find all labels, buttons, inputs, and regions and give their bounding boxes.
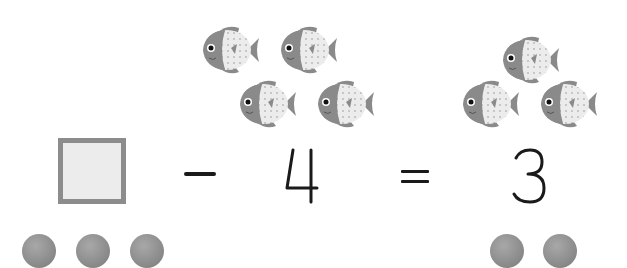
fish-icon: [533, 78, 601, 130]
digit-three: [510, 148, 550, 204]
ball-icon: [76, 234, 110, 268]
equals-sign: [401, 170, 429, 184]
fish-icon: [310, 78, 378, 130]
fish-icon: [232, 78, 300, 130]
digit-four: [285, 148, 321, 204]
ball-icon: [22, 234, 56, 268]
ball-icon: [543, 234, 577, 268]
fish-icon: [273, 24, 341, 76]
ball-icon: [130, 234, 164, 268]
answer-blank-box[interactable]: [58, 138, 126, 204]
ball-icon: [490, 234, 524, 268]
fish-icon: [195, 24, 263, 76]
fish-icon: [455, 78, 523, 130]
minus-sign: [184, 172, 216, 176]
